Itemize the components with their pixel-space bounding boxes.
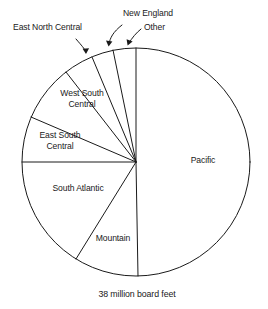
divider-pacific-mountain <box>136 162 138 276</box>
slice-label-south-atlantic: South Atlantic <box>52 183 103 194</box>
slice-label-mountain: Mountain <box>96 233 131 244</box>
slice-label-pacific: Pacific <box>191 155 216 166</box>
callout-label-new-england: New England <box>123 8 173 19</box>
pie-chart-figure: Pacific Mountain South Atlantic East Sou… <box>0 0 268 309</box>
leader-arrow-new-england <box>106 41 112 47</box>
leader-arrow-east-north-central <box>83 48 90 54</box>
divider-new-england-other <box>113 50 136 162</box>
callout-label-east-north-central: East North Central <box>13 22 82 33</box>
leader-line-new-england <box>109 25 122 44</box>
callout-label-other: Other <box>144 22 165 33</box>
slice-label-east-south-central-line1: East South <box>39 130 80 141</box>
slice-label-west-south-central-line1: West South <box>60 88 103 99</box>
chart-caption: 38 million board feet <box>98 289 175 300</box>
divider-mountain-south-atlantic <box>76 162 136 259</box>
pie-chart-graphic <box>0 0 268 309</box>
leader-arrow-other <box>127 39 133 45</box>
slice-label-east-south-central-line2: Central <box>46 141 73 152</box>
divider-west-south-central-east-north-central <box>66 72 136 162</box>
slice-label-west-south-central-line2: Central <box>68 99 95 110</box>
